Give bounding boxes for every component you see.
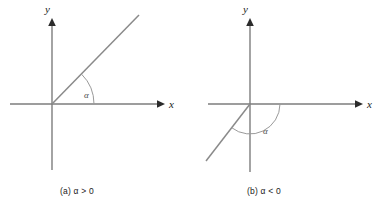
panel-a-group: x y α: [10, 3, 174, 170]
panel-a-angle-ray: [52, 15, 139, 104]
panel-a-angle-label: α: [84, 90, 89, 100]
panel-b-angle-ray: [206, 104, 250, 161]
panel-b-x-axis-label: x: [366, 98, 372, 110]
panel-a-caption: (a) α > 0: [60, 186, 94, 196]
panel-b-x-axis-arrowhead: [355, 100, 363, 108]
panel-b-y-axis-label: y: [242, 3, 248, 15]
panel-a-y-axis-arrowhead: [48, 18, 56, 26]
panel-a-x-axis-arrowhead: [157, 100, 165, 108]
panel-a-y-axis-label: y: [44, 3, 50, 15]
panel-a-x-axis-label: x: [168, 98, 174, 110]
angle-diagram-svg: x y α x y α: [0, 0, 377, 211]
panel-b-caption: (b) α < 0: [247, 186, 281, 196]
panel-b-y-axis-arrowhead: [246, 18, 254, 26]
figure-container: x y α x y α: [0, 0, 377, 211]
panel-b-angle-label: α: [263, 126, 268, 136]
panel-b-group: x y α: [206, 3, 372, 172]
